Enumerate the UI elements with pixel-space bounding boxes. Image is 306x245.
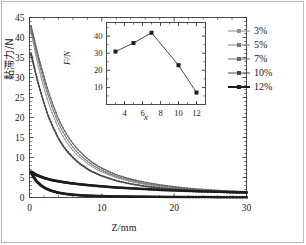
- inset-series-group: [114, 31, 199, 95]
- legend-label: 7%: [254, 53, 267, 64]
- legend-item-10pct[interactable]: 10%: [228, 66, 298, 79]
- main-x-axis-title: Z/mm: [0, 222, 248, 233]
- svg-text:20: 20: [94, 65, 103, 75]
- svg-text:15: 15: [15, 133, 25, 143]
- figure-container: 0510152025303540450102030 黏滞力/N Z/mm 102…: [0, 0, 306, 245]
- svg-text:25: 25: [15, 93, 25, 103]
- inset-plot-container: 102030404681012: [88, 16, 208, 116]
- legend-label: 10%: [254, 67, 272, 78]
- svg-text:0: 0: [27, 203, 32, 213]
- svg-text:30: 30: [94, 48, 103, 58]
- svg-text:45: 45: [15, 13, 25, 23]
- inset-x-axis-title: x: [86, 112, 206, 122]
- legend-label: 3%: [254, 25, 267, 36]
- legend-swatch-icon: [228, 40, 250, 50]
- inset-y-axis-title-wrap: F/N: [56, 38, 68, 78]
- legend-square-marker-icon: [237, 43, 241, 47]
- legend-swatch-icon: [228, 26, 250, 36]
- svg-text:35: 35: [15, 53, 25, 63]
- svg-text:30: 30: [242, 203, 252, 213]
- legend-square-marker-icon: [237, 85, 241, 89]
- svg-text:5: 5: [20, 173, 25, 183]
- inset-plot: 102030404681012: [88, 16, 208, 116]
- legend-item-7pct[interactable]: 7%: [228, 52, 298, 65]
- legend-item-12pct[interactable]: 12%: [228, 80, 298, 93]
- inset-y-axis-title: F/N: [62, 51, 72, 65]
- svg-text:10: 10: [15, 153, 25, 163]
- legend-label: 5%: [254, 39, 267, 50]
- svg-text:20: 20: [169, 203, 179, 213]
- svg-text:40: 40: [94, 31, 103, 41]
- legend-swatch-icon: [228, 54, 250, 64]
- svg-text:20: 20: [15, 113, 25, 123]
- svg-text:10: 10: [94, 82, 103, 92]
- svg-text:0: 0: [20, 193, 25, 203]
- legend: 3%5%7%10%12%: [228, 24, 298, 94]
- legend-square-marker-icon: [237, 29, 241, 33]
- legend-square-marker-icon: [237, 57, 241, 61]
- main-y-axis-title: 黏滞力/N: [1, 0, 16, 119]
- legend-item-3pct[interactable]: 3%: [228, 24, 298, 37]
- legend-item-5pct[interactable]: 5%: [228, 38, 298, 51]
- inset-axes: 102030404681012: [94, 23, 206, 117]
- legend-swatch-icon: [228, 82, 250, 92]
- svg-text:30: 30: [15, 73, 25, 83]
- svg-text:10: 10: [97, 203, 107, 213]
- main-y-axis-title-wrap: 黏滞力/N: [1, 0, 15, 119]
- legend-square-marker-icon: [237, 71, 241, 75]
- legend-swatch-icon: [228, 68, 250, 78]
- svg-text:40: 40: [15, 33, 25, 43]
- legend-label: 12%: [254, 81, 272, 92]
